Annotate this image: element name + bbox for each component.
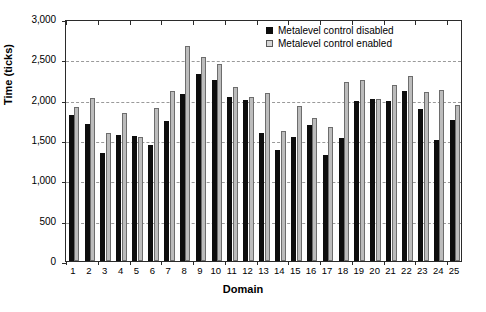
y-tick-label: 1,500 xyxy=(0,135,56,146)
y-tick-label: 0 xyxy=(0,256,56,267)
bar-series-enabled xyxy=(233,87,238,261)
x-axis-title: Domain xyxy=(0,283,486,295)
y-tick-mark xyxy=(62,182,66,183)
top-tick-mark xyxy=(193,21,194,25)
legend-label: Metalevel control enabled xyxy=(278,37,392,50)
bar-series-disabled xyxy=(100,153,105,261)
top-tick-mark xyxy=(66,21,67,25)
top-tick-mark xyxy=(257,21,258,25)
bar-series-disabled xyxy=(291,137,296,261)
bar-series-disabled xyxy=(259,133,264,261)
bar-series-enabled xyxy=(74,107,79,261)
bar-series-enabled xyxy=(154,108,159,261)
top-tick-mark xyxy=(225,21,226,25)
bar-series-enabled xyxy=(312,118,317,261)
bar-series-enabled xyxy=(455,105,460,261)
bar-series-disabled xyxy=(323,155,328,261)
bar-series-enabled xyxy=(392,85,397,261)
bar-series-disabled xyxy=(212,80,217,261)
bar-series-disabled xyxy=(434,140,439,261)
bar-series-disabled xyxy=(164,121,169,261)
y-tick-label: 2,000 xyxy=(0,95,56,106)
bar-series-disabled xyxy=(85,124,90,261)
bar-series-enabled xyxy=(360,80,365,261)
bar-series-enabled xyxy=(249,97,254,261)
bar-series-enabled xyxy=(265,93,270,261)
legend-item: Metalevel control enabled xyxy=(266,37,394,50)
bar-series-enabled xyxy=(424,92,429,261)
y-tick-mark xyxy=(62,61,66,62)
bar-series-enabled xyxy=(408,76,413,261)
bar-series-enabled xyxy=(297,106,302,261)
top-tick-mark xyxy=(447,21,448,25)
plot-area xyxy=(65,20,462,262)
top-tick-mark xyxy=(161,21,162,25)
y-tick-mark xyxy=(62,142,66,143)
bar-series-disabled xyxy=(370,99,375,261)
bar-series-disabled xyxy=(402,91,407,261)
bar-series-enabled xyxy=(138,137,143,261)
x-tick-label: 25 xyxy=(442,265,466,276)
bar-series-enabled xyxy=(328,127,333,261)
bar-series-enabled xyxy=(217,64,222,261)
legend-swatch-light xyxy=(266,40,273,47)
y-tick-label: 1,000 xyxy=(0,175,56,186)
top-tick-mark xyxy=(98,21,99,25)
bar-chart: Time (ticks) 05001,0001,5002,0002,5003,0… xyxy=(0,0,486,312)
y-tick-mark xyxy=(62,223,66,224)
bar-series-disabled xyxy=(275,150,280,261)
top-tick-mark xyxy=(415,21,416,25)
bar-series-disabled xyxy=(307,125,312,261)
bar-series-enabled xyxy=(344,82,349,261)
legend-swatch-dark xyxy=(266,27,273,34)
y-tick-label: 2,500 xyxy=(0,54,56,65)
bar-series-enabled xyxy=(122,113,127,261)
bar-series-disabled xyxy=(386,101,391,261)
legend-item: Metalevel control disabled xyxy=(266,24,394,37)
bar-series-disabled xyxy=(450,120,455,261)
bar-series-disabled xyxy=(148,145,153,261)
top-tick-mark xyxy=(130,21,131,25)
bar-series-enabled xyxy=(185,46,190,261)
bar-series-enabled xyxy=(376,99,381,261)
bar-series-disabled xyxy=(69,115,74,261)
bar-series-disabled xyxy=(243,100,248,261)
bar-series-enabled xyxy=(106,133,111,261)
chart-legend: Metalevel control disabledMetalevel cont… xyxy=(266,24,394,50)
bar-series-disabled xyxy=(196,74,201,261)
gridline xyxy=(66,61,461,62)
bar-series-enabled xyxy=(170,91,175,261)
bar-series-disabled xyxy=(418,109,423,261)
bar-series-disabled xyxy=(339,138,344,261)
bar-series-disabled xyxy=(354,101,359,261)
bar-series-enabled xyxy=(439,90,444,261)
bar-series-enabled xyxy=(201,57,206,261)
bar-series-disabled xyxy=(132,136,137,261)
legend-label: Metalevel control disabled xyxy=(278,24,394,37)
bar-series-disabled xyxy=(180,94,185,261)
bar-series-enabled xyxy=(90,98,95,261)
bar-series-enabled xyxy=(281,131,286,261)
bar-series-disabled xyxy=(116,135,121,261)
y-tick-label: 500 xyxy=(0,216,56,227)
y-tick-label: 3,000 xyxy=(0,14,56,25)
bar-series-disabled xyxy=(227,97,232,261)
y-tick-mark xyxy=(62,102,66,103)
